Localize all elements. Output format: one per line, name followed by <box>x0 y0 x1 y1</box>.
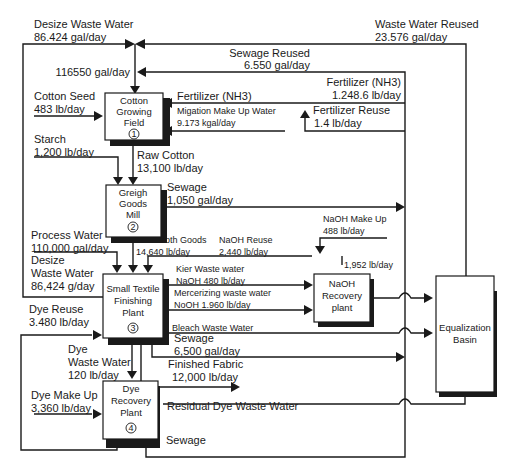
dye-reuse-name: Dye Reuse <box>29 303 83 315</box>
finishing-plant-number: 3 <box>130 323 135 333</box>
dye-recovery-number: 4 <box>128 423 133 433</box>
water-to-field-value: 116550 gal/day <box>56 66 131 78</box>
kier-waste-value: NaOH 480 lb/day <box>176 276 246 286</box>
desize-top-value: 86.424 gal/day <box>34 31 107 43</box>
mercerizing-waste-value: NoOH 1.960 lb/day <box>174 300 251 310</box>
sewage-plant-value: 6,500 gal/day <box>174 345 241 357</box>
desize-in-value: 86,424 g/day <box>31 280 95 292</box>
sewage-mill-value: 1,050 gal/day <box>167 194 234 206</box>
naoh-reuse-value: 2,440 lb/day <box>219 247 269 257</box>
starch-line <box>34 157 118 178</box>
waste-water-reused-value: 23.576 gal/day <box>375 31 448 43</box>
raw-cloth-value: 14,640 lb/day <box>136 247 191 257</box>
migation-water-value: 9.173 kgal/day <box>177 118 236 128</box>
dye-recovery-line-3: Plant <box>120 407 142 418</box>
naoh-plant-line-3: plant <box>332 302 353 313</box>
finishing-plant-line-3: Plant <box>122 307 144 318</box>
greigh-mill-line-3: Mill <box>126 209 140 220</box>
cotton-seed-value: 483 lb/day <box>34 103 85 115</box>
finished-fabric-name: Finished Fabric <box>168 358 244 370</box>
cotton-field-line-2: Growing <box>116 106 151 117</box>
greigh-mill-line-1: Greigh <box>119 187 148 198</box>
fertilizer-reuse-value: 1.4 lb/day <box>314 117 362 129</box>
process-water-value: 110,000 gal/day <box>31 242 109 254</box>
cotton-field-line-3: Field <box>124 117 145 128</box>
naoh-plant-line-1: NaOH <box>329 278 356 289</box>
node-naoh-recovery-plant: NaOH Recovery plant <box>314 274 374 327</box>
textile-water-flow-diagram: Cotton Growing Field 1 Greigh Goods Mill… <box>0 0 513 470</box>
dye-makeup-value: 3,360 lb/day <box>31 402 91 414</box>
node-dye-recovery-plant: Dye Recovery Plant 4 <box>103 381 160 448</box>
naoh-recovery-out-line <box>371 293 425 298</box>
naoh-plant-line-2: Recovery <box>322 290 362 301</box>
starch-value: 1,200 lb/day <box>34 146 94 158</box>
naoh-loop-value: 1,952 lb/day <box>344 260 394 270</box>
waste-water-reused-name: Waste Water Reused <box>375 18 479 30</box>
desize-in-name-1: Desize <box>31 254 65 266</box>
greigh-mill-line-2: Goods <box>119 198 147 209</box>
raw-cotton-name: Raw Cotton <box>137 149 194 161</box>
node-equalization-basin: Equalization Basin <box>436 276 497 397</box>
raw-cloth-name: Raw Cloth Goods <box>136 235 207 245</box>
flow-labels: Desize Waste Water 86.424 gal/day Waste … <box>29 18 479 446</box>
dye-recovery-line-2: Recovery <box>111 395 151 406</box>
sewage-reused-name: Sewage Reused <box>229 47 310 59</box>
equalization-line-2: Basin <box>453 334 477 345</box>
fertilizer-in-name: Fertilizer (NH3) <box>177 90 252 102</box>
cotton-seed-name: Cotton Seed <box>34 90 95 102</box>
dye-recovery-line-1: Dye <box>123 383 140 394</box>
residual-dye-name: Residual Dye Waste Water <box>167 400 299 412</box>
fertilizer-total-name: Fertilizer (NH3) <box>326 76 401 88</box>
cotton-field-line-1: Cotton <box>120 95 148 106</box>
finishing-plant-line-2: Finishing <box>114 295 152 306</box>
dye-waste-name-1: Dye <box>68 343 88 355</box>
fertilizer-total-value: 1.248.6 lb/day <box>332 89 402 101</box>
kier-waste-name: Kier Waste water <box>176 264 244 274</box>
dye-reuse-value: 3.480 lb/day <box>29 316 89 328</box>
migation-water-name: Migation Make Up Water <box>177 106 276 116</box>
dye-makeup-name: Dye Make Up <box>31 389 98 401</box>
dye-waste-name-2: Waste Water <box>68 356 131 368</box>
greigh-mill-number: 2 <box>130 222 135 232</box>
cotton-field-number: 1 <box>131 129 136 139</box>
fertilizer-reuse-name: Fertilizer Reuse <box>313 104 390 116</box>
desize-in-name-2: Waste Water <box>31 267 94 279</box>
finished-fabric-value: 12,000 lb/day <box>172 371 239 383</box>
naoh-makeup-line <box>320 238 387 248</box>
finishing-plant-line-1: Small Textile <box>106 283 159 294</box>
naoh-makeup-value: 488 lb/day <box>323 226 365 236</box>
sewage-mill-name: Sewage <box>167 181 207 193</box>
dye-waste-value: 120 lb/day <box>68 369 119 381</box>
naoh-makeup-name: NaOH Make Up <box>323 214 387 224</box>
sewage-reused-value: 6.550 gal/day <box>244 59 311 71</box>
desize-top-name: Desize Waste Water <box>34 18 134 30</box>
node-cotton-growing-field: Cotton Growing Field 1 <box>105 93 170 146</box>
raw-cotton-value: 13,100 lb/day <box>137 162 204 174</box>
mercerizing-waste-name: Mercerizing waste water <box>174 288 271 298</box>
process-water-name: Process Water <box>31 229 103 241</box>
node-finishing-plant: Small Textile Finishing Plant 3 <box>103 274 169 345</box>
starch-name: Starch <box>34 133 66 145</box>
sewage-plant-name: Sewage <box>174 332 214 344</box>
sewage-dye-name: Sewage <box>166 434 206 446</box>
naoh-reuse-name: NaOH Reuse <box>219 235 273 245</box>
equalization-line-1: Equalization <box>439 322 491 333</box>
